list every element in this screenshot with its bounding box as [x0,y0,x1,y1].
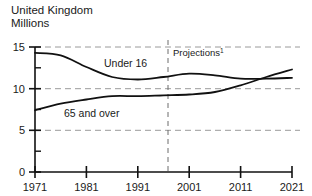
x-tick-label-2011: 2011 [229,181,253,193]
y-tick-label-10: 10 [13,83,25,95]
projections-annotation-label: Projections1 [173,47,224,59]
y-axis-tick-labels: 15 10 5 0 [13,41,25,178]
series-label-65-and-over: 65 and over [64,107,120,119]
x-tick-label-1991: 1991 [126,181,150,193]
line-chart-plot: 15 10 5 0 1971 1981 1991 2001 2011 2021 … [0,0,312,196]
series-line-65-and-over [35,70,292,111]
projections-annotation-superscript: 1 [220,47,224,54]
x-tick-label-2001: 2001 [177,181,201,193]
x-axis-tick-labels: 1971 1981 1991 2001 2011 2021 [23,181,304,193]
y-tick-label-0: 0 [19,166,25,178]
y-tick-label-5: 5 [19,124,25,136]
x-tick-label-1981: 1981 [74,181,98,193]
y-tick-label-15: 15 [13,41,25,53]
x-tick-label-2021: 2021 [280,181,304,193]
series-label-under-16: Under 16 [104,57,147,69]
projections-annotation-text: Projections [173,47,220,58]
series-line-under-16 [35,53,292,80]
x-tick-label-1971: 1971 [23,181,47,193]
chart-container: United Kingdom Millions [0,0,312,196]
